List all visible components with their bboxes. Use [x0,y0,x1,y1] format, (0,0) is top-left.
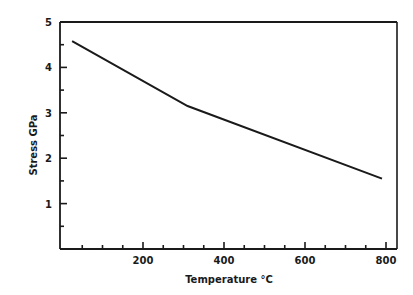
x-axis-label: Temperature °C [185,274,273,285]
plot-frame [60,22,397,249]
y-tick-label: 1 [45,199,52,210]
chart: 12345 200400600800 Temperature °C Stress… [0,0,413,295]
x-tick-label: 200 [133,255,154,266]
stress-line [72,41,382,179]
x-ticks: 200400600800 [82,242,396,266]
y-tick-label: 3 [45,108,52,119]
x-tick-label: 800 [376,255,397,266]
y-ticks: 12345 [45,17,67,226]
x-tick-label: 400 [214,255,235,266]
y-axis-label: Stress GPa [28,114,39,175]
y-tick-label: 5 [45,17,52,28]
x-tick-label: 600 [295,255,316,266]
y-tick-label: 2 [45,153,52,164]
y-tick-label: 4 [45,62,52,73]
